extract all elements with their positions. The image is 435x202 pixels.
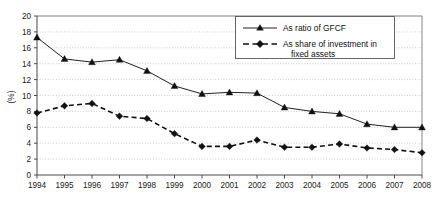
- x-tick-label: 1996: [83, 181, 102, 190]
- x-tick-label: 2003: [275, 181, 294, 190]
- data-point-triangle: [116, 56, 123, 62]
- y-tick-label: 14: [22, 60, 32, 69]
- data-point-diamond: [89, 100, 96, 107]
- x-tick-label: 1999: [165, 181, 184, 190]
- y-tick-label: 12: [22, 76, 32, 85]
- data-point-diamond: [34, 110, 41, 117]
- x-axis-ticks: 1994199519961997199819992000200120022003…: [28, 175, 432, 190]
- data-point-diamond: [391, 146, 398, 153]
- data-point-diamond: [171, 130, 178, 137]
- y-tick-label: 10: [22, 92, 32, 101]
- data-point-diamond: [254, 137, 261, 144]
- x-tick-label: 2006: [358, 181, 377, 190]
- data-point-triangle: [144, 67, 151, 73]
- x-tick-label: 1994: [28, 181, 47, 190]
- y-tick-label: 16: [22, 44, 32, 53]
- legend-label-share-investment-line2: fixed assets: [291, 49, 335, 59]
- legend-label-ratio-gfcf: As ratio of GFCF: [283, 23, 346, 33]
- y-axis-ticks: 02468101214161820: [22, 12, 37, 180]
- y-tick-label: 6: [26, 123, 31, 132]
- y-tick-label: 8: [26, 107, 31, 116]
- data-point-diamond: [364, 145, 371, 152]
- data-point-triangle: [61, 56, 68, 62]
- x-tick-label: 2004: [303, 181, 322, 190]
- y-tick-label: 2: [26, 155, 31, 164]
- y-axis-title: (%): [7, 90, 16, 103]
- x-tick-label: 1995: [55, 181, 74, 190]
- data-point-diamond: [226, 143, 233, 150]
- x-tick-label: 2001: [220, 181, 239, 190]
- y-tick-label: 4: [26, 139, 31, 148]
- x-tick-label: 2008: [413, 181, 432, 190]
- y-tick-label: 0: [26, 171, 31, 180]
- legend-label-share-investment: As share of investment in: [283, 39, 377, 49]
- data-point-diamond: [116, 113, 123, 120]
- x-tick-label: 1997: [110, 181, 129, 190]
- data-point-diamond: [309, 144, 316, 151]
- data-point-diamond: [336, 141, 343, 148]
- data-point-triangle: [34, 34, 41, 40]
- data-point-diamond: [144, 115, 151, 122]
- chart-legend[interactable]: As ratio of GFCF As share of investment …: [236, 17, 395, 59]
- x-tick-label: 2000: [193, 181, 212, 190]
- data-point-triangle: [281, 104, 288, 110]
- data-point-diamond: [199, 143, 206, 150]
- x-tick-label: 2005: [330, 181, 349, 190]
- y-tick-label: 20: [22, 12, 32, 21]
- data-point-triangle: [171, 83, 178, 89]
- chart-figure: 02468101214161820 1994199519961997199819…: [0, 0, 435, 202]
- x-tick-label: 2002: [248, 181, 267, 190]
- line-chart: 02468101214161820 1994199519961997199819…: [0, 0, 435, 202]
- x-tick-label: 2007: [385, 181, 404, 190]
- data-point-diamond: [281, 144, 288, 151]
- y-tick-label: 18: [22, 28, 32, 37]
- data-point-diamond: [61, 103, 68, 110]
- x-tick-label: 1998: [138, 181, 157, 190]
- data-point-diamond: [419, 149, 426, 156]
